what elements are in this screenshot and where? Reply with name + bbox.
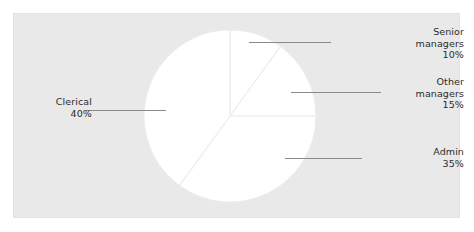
pie-label-other-managers-line1: Other <box>336 76 464 88</box>
pie-label-senior-managers-line2: managers <box>336 38 464 50</box>
pie-label-admin-line1: Admin <box>336 146 464 158</box>
pie-label-clerical-line1: Clerical <box>22 96 92 108</box>
pie-chart-figure: Senior managers 10% Other managers 15% A… <box>0 0 474 232</box>
pie-label-senior-managers-value: 10% <box>336 49 464 61</box>
pie-label-other-managers: Other managers 15% <box>336 76 464 111</box>
pie-label-senior-managers-line1: Senior <box>336 26 464 38</box>
pie-label-senior-managers: Senior managers 10% <box>336 26 464 61</box>
pie-label-clerical-value: 40% <box>22 108 92 120</box>
pie-label-clerical: Clerical 40% <box>22 96 92 119</box>
pie-label-other-managers-line2: managers <box>336 88 464 100</box>
pie-label-other-managers-value: 15% <box>336 99 464 111</box>
pie-label-admin-value: 35% <box>336 158 464 170</box>
pie-label-admin: Admin 35% <box>336 146 464 169</box>
